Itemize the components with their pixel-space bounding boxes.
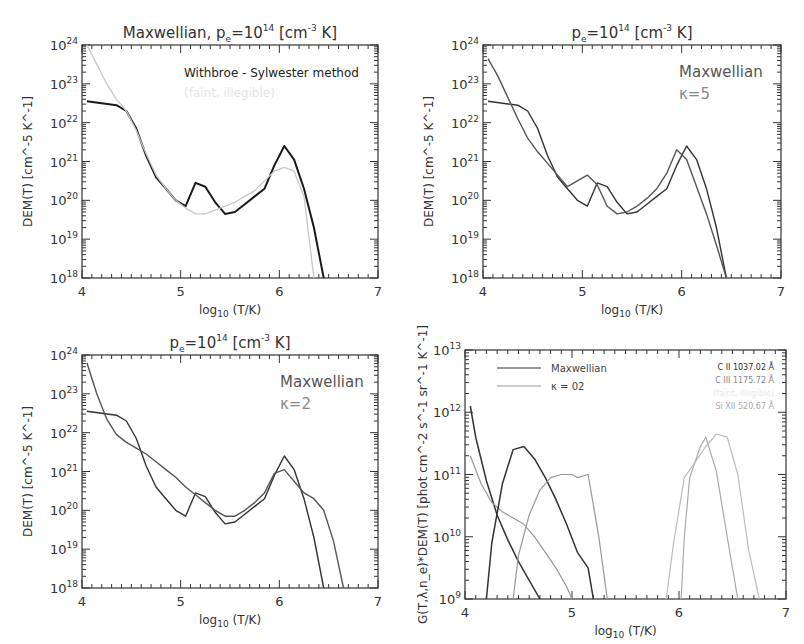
y-tick-label: 1021 <box>50 153 78 170</box>
x-tick-label: 5 <box>568 605 576 620</box>
line-label: Si XII 520.67 Å <box>715 400 774 411</box>
x-tick-label: 6 <box>275 284 283 299</box>
chart-panel-2: 45671018101910201021102210231024pe=1014 … <box>422 23 785 319</box>
y-tick-label: 1022 <box>50 114 78 131</box>
x-tick-label: 7 <box>777 284 785 299</box>
y-tick-label: 1023 <box>50 385 78 402</box>
line-label: C II 1037.02 Å <box>718 361 775 372</box>
chart-panel-4: 45671091010101110121013log10 (T/K)G(T,λ,… <box>416 325 790 640</box>
legend-entry: Withbroe - Sylwester method <box>184 66 359 80</box>
x-tick-label: 4 <box>78 594 86 609</box>
legend-entry: Maxwellian <box>551 363 607 374</box>
y-tick-label: 1019 <box>50 230 78 247</box>
y-tick-label: 1024 <box>451 36 479 53</box>
data-series-line <box>681 437 738 599</box>
chart-title: Maxwellian, pe=1014 [cm-3 K] <box>123 23 337 44</box>
chart-panel-1: 45671018101910201021102210231024Maxwelli… <box>21 23 382 319</box>
legend-entry: Maxwellian <box>280 373 364 391</box>
y-tick-label: 1012 <box>433 403 461 420</box>
y-axis-label: G(T,λ,n_e)*DEM(T) [phot cm^-2 s^-1 sr^-1… <box>416 325 430 624</box>
y-tick-label: 1013 <box>433 341 461 358</box>
y-tick-label: 109 <box>439 590 462 607</box>
line-label: C III 1175.72 Å <box>715 374 774 385</box>
y-tick-label: 1019 <box>451 230 479 247</box>
y-tick-label: 1020 <box>50 501 78 518</box>
y-axis-label: DEM(T) [cm^-5 K^-1] <box>21 96 35 227</box>
y-tick-label: 1023 <box>50 75 78 92</box>
x-tick-label: 7 <box>374 594 382 609</box>
line-label: (faint, illegible) <box>713 389 774 398</box>
data-series-line <box>87 411 324 588</box>
x-tick-label: 5 <box>177 284 185 299</box>
data-series-line <box>87 101 324 278</box>
y-tick-label: 1010 <box>433 528 461 545</box>
y-tick-label: 1021 <box>451 153 479 170</box>
legend-entry: κ = 02 <box>551 381 584 392</box>
y-axis-label: DEM(T) [cm^-5 K^-1] <box>422 96 436 227</box>
x-axis-label: log10 (T/K) <box>601 303 663 319</box>
x-tick-label: 5 <box>177 594 185 609</box>
y-tick-label: 1018 <box>50 579 78 596</box>
x-axis-label: log10 (T/K) <box>594 624 656 640</box>
x-tick-label: 4 <box>461 605 469 620</box>
y-axis-label: DEM(T) [cm^-5 K^-1] <box>21 406 35 537</box>
data-series-line <box>513 475 607 600</box>
data-series-line <box>488 101 726 278</box>
chart-title: pe=1014 [cm-3 K] <box>571 23 692 44</box>
x-tick-label: 6 <box>275 594 283 609</box>
y-tick-label: 1024 <box>50 346 78 363</box>
x-axis-label: log10 (T/K) <box>199 613 261 629</box>
y-tick-label: 1022 <box>451 114 479 131</box>
y-tick-label: 1018 <box>451 269 479 286</box>
y-tick-label: 1011 <box>433 466 461 483</box>
x-tick-label: 6 <box>675 605 683 620</box>
figure-canvas: 45671018101910201021102210231024Maxwelli… <box>0 0 804 644</box>
y-tick-label: 1021 <box>50 463 78 480</box>
x-tick-label: 7 <box>374 284 382 299</box>
chart-panel-3: 45671018101910201021102210231024pe=1014 … <box>21 333 382 629</box>
data-series-line <box>486 447 593 600</box>
x-tick-label: 7 <box>782 605 790 620</box>
y-tick-label: 1024 <box>50 36 78 53</box>
legend-entry: κ=5 <box>679 85 710 103</box>
y-tick-label: 1020 <box>50 191 78 208</box>
x-tick-label: 4 <box>479 284 487 299</box>
y-tick-label: 1022 <box>50 424 78 441</box>
legend-entry: Maxwellian <box>679 63 763 81</box>
legend-entry: κ=2 <box>280 395 311 413</box>
y-tick-label: 1020 <box>451 191 479 208</box>
chart-title: pe=1014 [cm-3 K] <box>169 333 290 354</box>
x-tick-label: 6 <box>678 284 686 299</box>
y-tick-label: 1018 <box>50 269 78 286</box>
legend-entry: (faint, illegible) <box>184 86 275 100</box>
y-tick-label: 1019 <box>50 540 78 557</box>
data-series-line <box>470 406 540 599</box>
x-tick-label: 5 <box>578 284 586 299</box>
y-tick-label: 1023 <box>451 75 479 92</box>
x-axis-label: log10 (T/K) <box>199 303 261 319</box>
x-tick-label: 4 <box>78 284 86 299</box>
